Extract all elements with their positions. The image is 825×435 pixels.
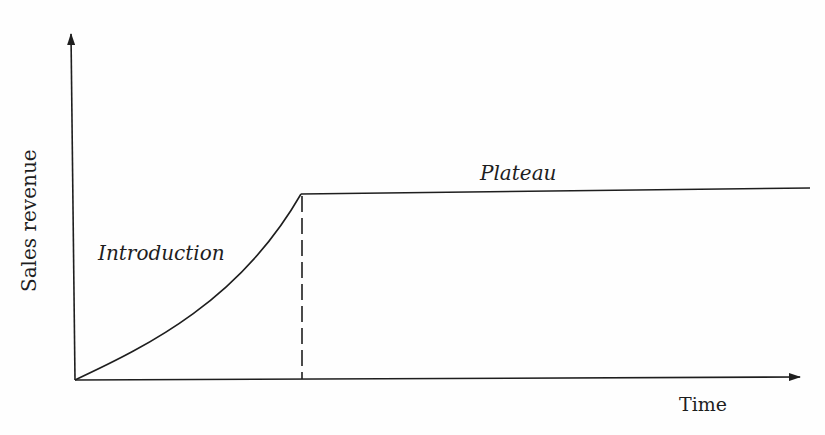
introduction-label: Introduction bbox=[97, 241, 225, 265]
y-axis bbox=[71, 34, 75, 380]
y-axis-label: Sales revenue bbox=[17, 149, 41, 292]
introduction-curve bbox=[75, 194, 301, 380]
diagram-svg: Sales revenue Time Introduction Plateau bbox=[0, 0, 825, 435]
plateau-label: Plateau bbox=[479, 161, 556, 185]
x-axis-label: Time bbox=[679, 393, 727, 415]
product-life-cycle-diagram: Sales revenue Time Introduction Plateau bbox=[0, 0, 825, 435]
x-axis bbox=[75, 377, 800, 380]
plateau-line bbox=[301, 188, 810, 194]
